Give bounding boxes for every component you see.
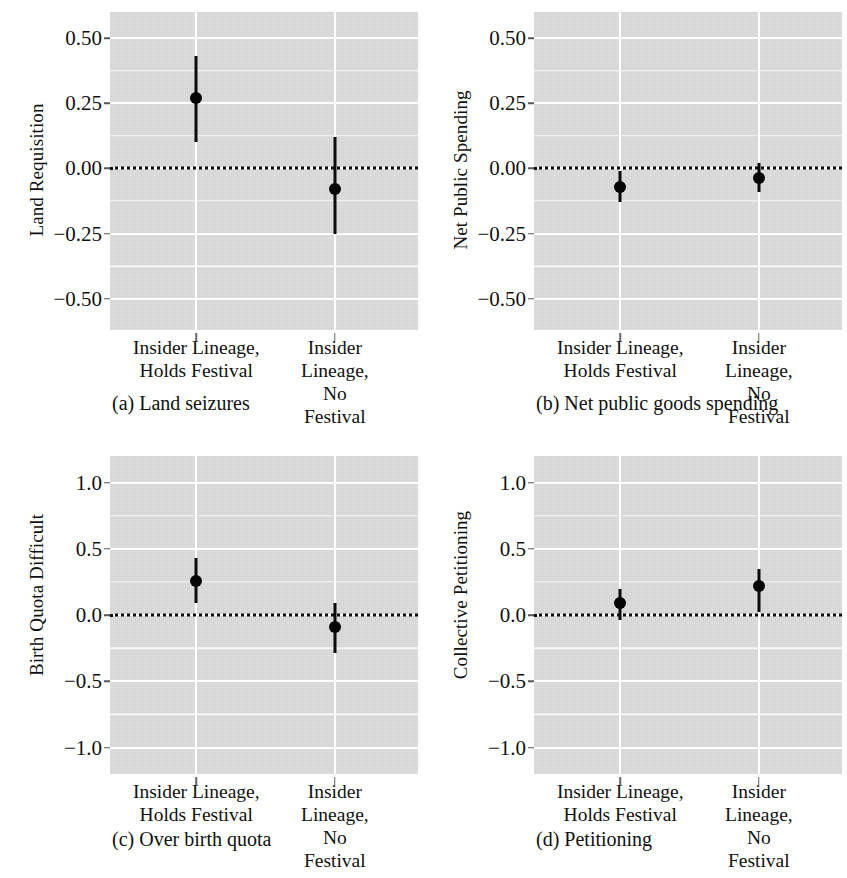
y-tick-label: −0.50 [440, 288, 526, 309]
estimate-point [190, 575, 202, 587]
estimate-point [329, 183, 341, 195]
y-tick-label: −1.0 [440, 737, 526, 758]
estimate-point [753, 172, 765, 184]
gridline-horizontal-minor [110, 714, 418, 716]
gridline-horizontal [534, 102, 842, 104]
gridline-horizontal-minor [534, 714, 842, 716]
gridline-horizontal-minor [534, 135, 842, 137]
gridline-horizontal-minor [110, 581, 418, 583]
gridline-horizontal [534, 233, 842, 235]
gridline-horizontal [110, 482, 418, 484]
y-tick-label: −0.50 [16, 288, 102, 309]
gridline-horizontal [110, 680, 418, 682]
estimate-point [614, 597, 626, 609]
panel-b-caption: (b) Net public goods spending [536, 392, 778, 415]
y-tick-label: 0.00 [440, 158, 526, 179]
panel-c-caption: (c) Over birth quota [112, 828, 271, 851]
gridline-horizontal [534, 747, 842, 749]
gridline-horizontal [534, 37, 842, 39]
coefficient-plot-figure: Land Requisition 0.500.250.00−0.25−0.50 … [0, 0, 847, 878]
panel-a-caption: (a) Land seizures [112, 392, 250, 415]
gridline-horizontal-minor [110, 70, 418, 72]
y-tick-label: 0.50 [440, 28, 526, 49]
estimate-point [753, 580, 765, 592]
y-tick-label: 0.00 [16, 158, 102, 179]
panel-c-y-tick-labels: 1.00.50.0−0.5−1.0 [12, 430, 102, 869]
gridline-horizontal-minor [534, 265, 842, 267]
panel-d-plot-area [534, 456, 842, 774]
y-tick-label: 0.0 [440, 605, 526, 626]
y-tick-label: 0.5 [16, 538, 102, 559]
y-tick-label: 1.0 [440, 472, 526, 493]
y-tick-label: −1.0 [16, 737, 102, 758]
panel-b: Net Public Spending 0.500.250.00−0.25−0.… [424, 0, 847, 439]
gridline-horizontal [534, 548, 842, 550]
x-axis-category-label: Insider Lineage, No Festival [715, 780, 803, 872]
gridline-horizontal [110, 37, 418, 39]
y-tick-label: 0.25 [16, 93, 102, 114]
gridline-horizontal-minor [110, 135, 418, 137]
y-tick-label: 1.0 [16, 472, 102, 493]
gridline-horizontal [534, 680, 842, 682]
zero-reference-line [534, 167, 842, 170]
panel-a-y-tick-labels: 0.500.250.00−0.25−0.50 [12, 0, 102, 439]
gridline-horizontal [110, 747, 418, 749]
panel-d: Collective Petitioning 1.00.50.0−0.5−1.0… [424, 430, 847, 869]
zero-reference-line [534, 614, 842, 617]
x-axis-category-label: Insider Lineage, No Festival [291, 780, 379, 872]
gridline-horizontal-minor [534, 200, 842, 202]
panel-d-y-tick-labels: 1.00.50.0−0.5−1.0 [436, 430, 526, 869]
estimate-point [329, 621, 341, 633]
zero-reference-line [110, 167, 418, 170]
zero-reference-line [110, 614, 418, 617]
gridline-horizontal-minor [110, 515, 418, 517]
gridline-horizontal-minor [534, 515, 842, 517]
panel-d-caption: (d) Petitioning [536, 828, 652, 851]
y-tick-label: −0.5 [16, 671, 102, 692]
y-tick-label: −0.25 [440, 223, 526, 244]
x-axis-category-label: Insider Lineage, Holds Festival [557, 780, 684, 826]
y-tick-label: 0.0 [16, 605, 102, 626]
x-axis-category-label: Insider Lineage, Holds Festival [557, 336, 684, 382]
panel-b-y-tick-labels: 0.500.250.00−0.25−0.50 [436, 0, 526, 439]
y-tick-label: −0.25 [16, 223, 102, 244]
gridline-horizontal [110, 102, 418, 104]
gridline-horizontal [110, 233, 418, 235]
panel-c: Birth Quota Difficult 1.00.50.0−0.5−1.0 … [0, 430, 423, 869]
panel-c-plot-area [110, 456, 418, 774]
gridline-horizontal-minor [110, 647, 418, 649]
estimate-point [190, 92, 202, 104]
panel-a: Land Requisition 0.500.250.00−0.25−0.50 … [0, 0, 423, 439]
gridline-horizontal-minor [110, 265, 418, 267]
x-axis-category-label: Insider Lineage, No Festival [291, 336, 379, 428]
gridline-horizontal-minor [534, 647, 842, 649]
gridline-horizontal [534, 298, 842, 300]
y-tick-label: 0.5 [440, 538, 526, 559]
gridline-horizontal [534, 482, 842, 484]
gridline-horizontal [110, 298, 418, 300]
gridline-horizontal-minor [534, 581, 842, 583]
x-axis-category-label: Insider Lineage, Holds Festival [133, 336, 260, 382]
gridline-horizontal [110, 548, 418, 550]
y-tick-label: 0.25 [440, 93, 526, 114]
panel-b-plot-area [534, 12, 842, 330]
x-axis-category-label: Insider Lineage, Holds Festival [133, 780, 260, 826]
y-tick-label: 0.50 [16, 28, 102, 49]
y-tick-label: −0.5 [440, 671, 526, 692]
gridline-horizontal-minor [534, 70, 842, 72]
estimate-point [614, 181, 626, 193]
gridline-horizontal-minor [110, 200, 418, 202]
panel-a-plot-area [110, 12, 418, 330]
